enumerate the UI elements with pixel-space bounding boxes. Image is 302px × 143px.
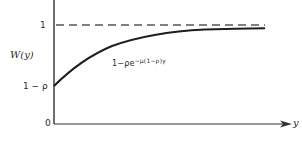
y-tick-one-minus-rho: 1 − ρ (23, 81, 48, 91)
waiting-time-distribution-chart: W(y) 1 1 − ρ 0 1−ρe−μ(1−ρ)y y (0, 0, 302, 143)
curve-formula-label: 1−ρe−μ(1−ρ)y (112, 56, 166, 69)
formula-base: 1−ρe (112, 59, 135, 68)
y-axis-label: W(y) (10, 50, 34, 60)
y-tick-one: 1 (40, 20, 46, 30)
y-tick-zero: 0 (45, 118, 51, 128)
x-axis-label: y (293, 118, 299, 128)
formula-exponent: −μ(1−ρ)y (135, 57, 166, 64)
